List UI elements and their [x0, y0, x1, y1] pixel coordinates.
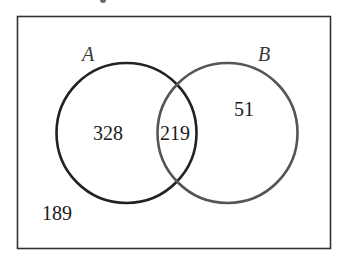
outside-count: 189	[42, 202, 72, 224]
set-a-only-count: 328	[93, 122, 123, 144]
set-a-label: A	[80, 43, 95, 65]
venn-diagram: A B 328 219 51 189	[0, 0, 343, 258]
intersection-count: 219	[160, 122, 190, 144]
set-b-only-count: 51	[234, 98, 254, 120]
set-b-label: B	[258, 43, 270, 65]
